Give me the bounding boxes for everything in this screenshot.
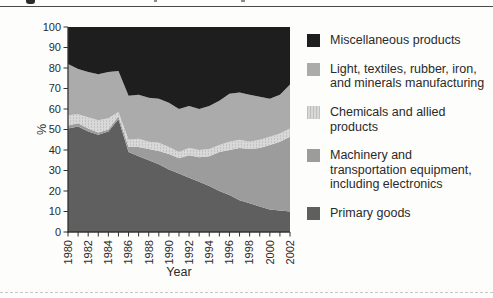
legend-item-light-textiles-rubber-iron: Light, textiles, rubber, iron,and minera… xyxy=(307,62,493,91)
y-tick-label: 60 xyxy=(49,103,61,115)
legend-swatch-primary-goods xyxy=(307,207,320,220)
y-tick-label: 100 xyxy=(43,21,61,33)
y-tick-label: 70 xyxy=(49,82,61,94)
legend-item-machinery-transportation: Machinery andtransportation equipment,in… xyxy=(307,148,493,192)
legend-label-machinery-transportation: Machinery andtransportation equipment,in… xyxy=(330,148,472,192)
x-tick-label: 1980 xyxy=(62,240,74,264)
y-tick-label: 80 xyxy=(49,62,61,74)
figure: 0102030405060708090100198019821984198619… xyxy=(0,0,493,298)
y-tick-label: 0 xyxy=(55,226,61,238)
bottom-rule xyxy=(0,292,493,293)
y-tick-label: 20 xyxy=(49,185,61,197)
x-tick-label: 1984 xyxy=(102,240,114,264)
legend-label-miscellaneous-products: Miscellaneous products xyxy=(330,33,461,48)
y-tick-label: 10 xyxy=(49,205,61,217)
areas xyxy=(68,27,290,232)
x-tick-label: 1988 xyxy=(143,240,155,264)
x-axis-title: Year xyxy=(166,265,191,279)
y-tick-label: 90 xyxy=(49,41,61,53)
y-tick-label: 30 xyxy=(49,164,61,176)
x-tick-label: 1982 xyxy=(82,240,94,264)
legend-swatch-machinery-transportation xyxy=(307,149,320,162)
x-tick-label: 1998 xyxy=(243,240,255,264)
y-tick-label: 40 xyxy=(49,144,61,156)
legend-swatch-light-textiles-rubber-iron xyxy=(307,63,320,76)
legend-swatch-chemicals-allied-products xyxy=(307,106,320,119)
x-tick-label: 2002 xyxy=(284,240,296,264)
legend-label-chemicals-allied-products: Chemicals and alliedproducts xyxy=(330,105,445,134)
y-axis-title: % xyxy=(35,124,49,135)
x-tick-label: 1996 xyxy=(223,240,235,264)
legend-label-primary-goods: Primary goods xyxy=(330,206,411,221)
x-tick-label: 1994 xyxy=(203,240,215,264)
y-tick-label: 50 xyxy=(49,123,61,135)
legend-swatch-miscellaneous-products xyxy=(307,34,320,47)
legend-item-primary-goods: Primary goods xyxy=(307,206,493,221)
x-tick-label: 2000 xyxy=(264,240,276,264)
x-tick-label: 1990 xyxy=(163,240,175,264)
legend-label-light-textiles-rubber-iron: Light, textiles, rubber, iron,and minera… xyxy=(330,62,484,91)
x-tick-label: 1992 xyxy=(183,240,195,264)
x-tick-label: 1986 xyxy=(122,240,134,264)
legend: Miscellaneous productsLight, textiles, r… xyxy=(307,33,493,235)
legend-item-miscellaneous-products: Miscellaneous products xyxy=(307,33,493,48)
legend-item-chemicals-allied-products: Chemicals and alliedproducts xyxy=(307,105,493,134)
